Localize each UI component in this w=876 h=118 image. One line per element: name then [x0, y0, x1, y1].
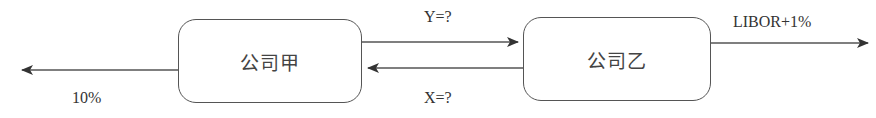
company-a-box: 公司甲 — [178, 19, 362, 103]
left-out-label: 10% — [72, 89, 101, 107]
right-out-label: LIBOR+1% — [733, 13, 811, 31]
y-flow-label: Y=? — [424, 8, 452, 26]
company-a-label: 公司甲 — [240, 48, 300, 75]
company-b-box: 公司乙 — [523, 17, 711, 101]
company-b-label: 公司乙 — [587, 46, 647, 73]
x-flow-label: X=? — [424, 89, 452, 107]
